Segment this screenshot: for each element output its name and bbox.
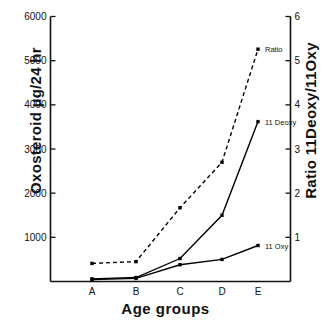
y-axis-label-right: Ratio 11Deoxy/11Oxy (302, 26, 319, 216)
x-tick-label: B (133, 286, 140, 297)
y-tick-label-right: 5 (295, 55, 301, 66)
data-point-11-deoxy (178, 257, 181, 260)
data-point-11-deoxy (220, 214, 223, 217)
x-tick-label: C (176, 286, 183, 297)
chart-plot-area: 100020003000400050006000123456ABCDE11 De… (0, 0, 331, 325)
series-annotation-ratio: Ratio (265, 45, 283, 54)
x-tick-label: D (218, 286, 225, 297)
y-axis-label-right-text: Ratio 11Deoxy/11Oxy (302, 42, 319, 199)
data-point-ratio (256, 47, 259, 50)
data-point-11-deoxy (256, 120, 259, 123)
data-point-ratio (134, 260, 137, 263)
y-tick-label-right: 6 (295, 11, 301, 22)
y-tick-label-left: 1000 (24, 232, 47, 243)
x-tick-label: E (255, 286, 262, 297)
y-axis-label-left: Oxosteroid µg/24 hr (27, 26, 44, 216)
x-axis-label-text: Age groups (121, 300, 209, 317)
y-tick-label-right: 1 (295, 232, 301, 243)
series-annotation-11-deoxy: 11 Deoxy (265, 118, 296, 127)
y-axis-label-left-text: Oxosteroid µg/24 hr (27, 47, 44, 194)
series-line-ratio (92, 49, 258, 263)
data-point-11-oxy (134, 277, 137, 280)
data-point-ratio (90, 262, 93, 265)
y-tick-label-right: 4 (295, 99, 301, 110)
data-point-11-oxy (90, 278, 93, 281)
chart-figure: 100020003000400050006000123456ABCDE11 De… (0, 0, 331, 325)
data-point-11-oxy (178, 263, 181, 266)
y-tick-label-right: 2 (295, 188, 301, 199)
x-tick-label: A (89, 286, 96, 297)
data-point-11-oxy (220, 258, 223, 261)
y-tick-label-left: 6000 (24, 11, 47, 22)
x-axis-label: Age groups (0, 300, 331, 317)
data-point-11-oxy (256, 244, 259, 247)
series-annotation-11-oxy: 11 Oxy (265, 242, 288, 251)
data-point-ratio (220, 161, 223, 164)
y-tick-label-right: 3 (295, 144, 301, 155)
data-point-ratio (178, 206, 181, 209)
